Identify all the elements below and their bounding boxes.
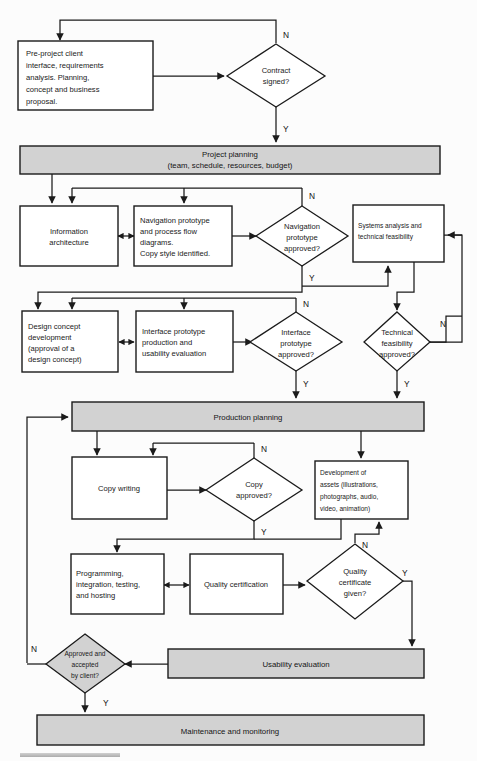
node-design-concept-line-0: Design concept xyxy=(28,322,81,331)
edge-label-quality-n: N xyxy=(362,540,368,550)
node-development-assets-line-0: Development of xyxy=(320,469,366,477)
node-maintenance-line-0: Maintenance and monitoring xyxy=(181,727,279,736)
node-approved-by-client-line-1: accepted xyxy=(72,661,99,669)
node-interface-approved-line-1: prototype xyxy=(280,339,312,348)
node-development-assets-line-2: photographs, audio, xyxy=(320,493,378,501)
edge-label-contract-n: N xyxy=(283,30,289,40)
node-approved-by-client[interactable]: Approved and accepted by client? xyxy=(46,634,125,693)
node-interface-approved-line-0: Interface xyxy=(281,328,311,337)
node-systems-analysis[interactable]: Systems analysis and technical feasibili… xyxy=(353,205,444,262)
node-pre-project-line-1: interface, requirements xyxy=(26,61,104,70)
flowchart-canvas: Pre-project client interface, requiremen… xyxy=(0,0,477,761)
node-navigation-prototype-line-0: Navigation prototype xyxy=(140,216,210,225)
edge-label-technical-n: N xyxy=(440,319,446,329)
node-approved-by-client-line-0: Approved and xyxy=(64,650,105,658)
node-quality-certificate-line-0: Quality xyxy=(343,567,367,576)
node-interface-prototype-line-2: usability evaluation xyxy=(142,349,206,358)
node-navigation-prototype-line-3: Copy style identified. xyxy=(140,249,210,258)
node-technical-approved-line-2: approved? xyxy=(379,350,415,359)
node-interface-prototype-line-0: Interface prototype xyxy=(142,327,205,336)
node-project-planning-line-0: Project planning xyxy=(202,150,258,159)
node-copy-approved-line-1: approved? xyxy=(236,491,272,500)
node-design-concept-line-2: (approval of a xyxy=(28,344,75,353)
node-pre-project-line-2: analysis. Planning, xyxy=(26,73,89,82)
node-quality-certification-line-0: Quality certification xyxy=(204,580,268,589)
node-approved-by-client-line-2: by client? xyxy=(71,672,99,680)
edge-label-navigation-y: Y xyxy=(309,273,315,283)
node-development-assets[interactable]: Development of assets (illustrations, ph… xyxy=(315,461,408,519)
node-quality-certificate-given[interactable]: Quality certificate given? xyxy=(307,544,403,619)
node-navigation-approved-line-1: prototype xyxy=(286,233,318,242)
node-navigation-prototype-line-2: diagrams. xyxy=(140,238,173,247)
node-interface-approved[interactable]: Interface prototype approved? xyxy=(250,312,342,371)
node-systems-analysis-line-0: Systems analysis and xyxy=(358,222,422,230)
node-production-planning-line-0: Production planning xyxy=(214,413,283,422)
node-development-assets-line-1: assets (illustrations, xyxy=(320,481,378,489)
flowchart-page: Pre-project client interface, requiremen… xyxy=(0,0,477,761)
node-copy-writing-line-0: Copy writing xyxy=(98,484,140,493)
edge-label-contract-y: Y xyxy=(283,124,289,134)
node-project-planning-line-1: (team, schedule, resources, budget) xyxy=(168,161,293,170)
node-usability-evaluation[interactable]: Usability evaluation xyxy=(168,649,424,678)
node-navigation-approved-line-0: Navigation xyxy=(284,222,320,231)
node-design-concept-line-1: development xyxy=(28,333,72,342)
node-production-planning[interactable]: Production planning xyxy=(72,402,424,431)
node-copy-writing[interactable]: Copy writing xyxy=(72,457,167,519)
node-contract-signed-line-1: signed? xyxy=(263,77,290,86)
node-usability-evaluation-line-0: Usability evaluation xyxy=(262,660,329,669)
node-interface-prototype-line-1: production and xyxy=(142,338,192,347)
edge-label-client-n: N xyxy=(31,644,37,654)
node-design-concept[interactable]: Design concept development (approval of … xyxy=(22,311,118,372)
edge-label-technical-y: Y xyxy=(404,379,410,389)
node-navigation-prototype[interactable]: Navigation prototype and process flow di… xyxy=(134,206,232,266)
node-interface-prototype[interactable]: Interface prototype production and usabi… xyxy=(136,311,233,372)
scan-artifact xyxy=(20,753,120,757)
node-systems-analysis-line-1: technical feasibility xyxy=(358,233,414,241)
node-technical-approved-line-1: feasibility xyxy=(381,339,412,348)
node-project-planning[interactable]: Project planning (team, schedule, resour… xyxy=(20,146,440,174)
edge-label-copy-y: Y xyxy=(261,527,267,537)
edge-label-quality-y: Y xyxy=(402,568,408,578)
node-interface-approved-line-2: approved? xyxy=(278,350,314,359)
node-copy-approved-line-0: Copy xyxy=(245,480,263,489)
edge-label-client-y: Y xyxy=(103,698,109,708)
node-maintenance[interactable]: Maintenance and monitoring xyxy=(37,715,424,745)
node-programming-line-2: and hosting xyxy=(76,591,115,600)
node-information-architecture[interactable]: Information architecture xyxy=(20,206,118,266)
node-information-architecture-line-1: architecture xyxy=(49,238,89,247)
node-contract-signed-line-0: Contract xyxy=(262,66,292,75)
edge-label-interface-y: Y xyxy=(303,379,309,389)
node-technical-feasibility-approved[interactable]: Technical feasibility approved? xyxy=(364,312,430,371)
node-programming[interactable]: Programming, integration, testing, and h… xyxy=(71,554,164,614)
node-development-assets-line-3: video, animation) xyxy=(320,505,370,513)
edge-label-copy-n: N xyxy=(261,444,267,454)
node-navigation-approved-line-2: approved? xyxy=(284,244,320,253)
node-contract-signed[interactable]: Contract signed? xyxy=(227,44,325,107)
node-pre-project-line-0: Pre-project client xyxy=(26,49,84,58)
node-programming-line-1: integration, testing, xyxy=(76,580,140,589)
node-quality-certification[interactable]: Quality certification xyxy=(190,554,283,614)
edge-label-navigation-n: N xyxy=(309,191,315,201)
node-quality-certificate-line-1: certificate xyxy=(339,578,372,587)
node-copy-approved[interactable]: Copy approved? xyxy=(206,458,302,521)
node-pre-project-line-4: proposal. xyxy=(26,97,57,106)
node-quality-certificate-line-2: given? xyxy=(344,589,366,598)
node-navigation-approved[interactable]: Navigation prototype approved? xyxy=(256,206,348,266)
node-design-concept-line-3: design concept) xyxy=(28,355,82,364)
node-information-architecture-line-0: Information xyxy=(50,227,88,236)
node-pre-project-line-3: concept and business xyxy=(26,85,100,94)
node-pre-project[interactable]: Pre-project client interface, requiremen… xyxy=(18,41,153,110)
node-navigation-prototype-line-1: and process flow xyxy=(140,227,197,236)
node-technical-approved-line-0: Technical xyxy=(381,328,413,337)
node-programming-line-0: Programming, xyxy=(76,569,124,578)
edge-label-interface-n: N xyxy=(303,299,309,309)
